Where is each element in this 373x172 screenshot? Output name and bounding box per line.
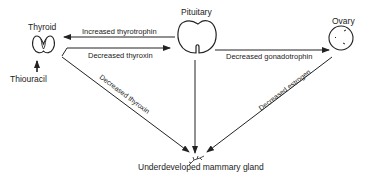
mammary-gland-label: Underdeveloped mammary gland: [138, 163, 264, 172]
edge-label-decreased-gonadotrophin: Decreased gonadotrophin: [226, 53, 312, 61]
edge-label-decreased-thyroxin: Decreased thyroxin: [88, 52, 153, 60]
edge-label-decreased-estrogen: Decreased estrogen: [257, 68, 312, 113]
ovary-icon: [329, 26, 353, 50]
edge-label-increased-thyrotrophin: Increased thyrotrophin: [82, 28, 157, 36]
thyroid-label: Thyroid: [28, 23, 56, 32]
edge-label-decreased-thyroxin-diagonal: Decreased thyroxin: [98, 73, 151, 116]
pituitary-label: Pituitary: [181, 8, 212, 17]
edge-decreased-thyroxin-to-mammary: [62, 57, 189, 152]
thiouracil-label: Thiouracil: [10, 75, 47, 84]
pituitary-icon: [178, 20, 216, 53]
ovary-label: Ovary: [332, 17, 355, 26]
thyroid-icon: [33, 36, 55, 53]
